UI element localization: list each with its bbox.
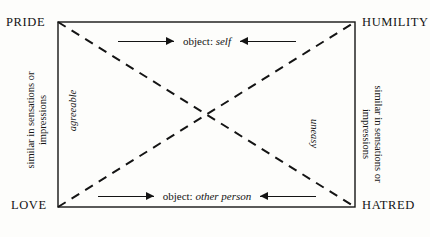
arrow-row-top: object: self	[76, 33, 338, 49]
side-label-left-line1: similar in sensations or	[25, 71, 36, 168]
edge-label-agreeable: agreeable	[67, 81, 78, 141]
object-value-bottom: other person	[195, 190, 251, 202]
object-label-bottom: object: other person	[163, 190, 252, 202]
side-label-right-line1: similar in sensations or	[373, 85, 384, 182]
edge-label-uneasy: uneasy	[309, 104, 320, 164]
corner-label-hatred: HATRED	[362, 199, 415, 212]
arrow-right-icon	[118, 37, 174, 46]
corner-label-love: LOVE	[11, 199, 47, 212]
object-label-top: object: self	[183, 35, 231, 47]
object-word-top: object:	[183, 35, 213, 47]
arrow-right-icon	[98, 192, 154, 201]
side-label-right-outer: similar in sensations or impressions	[360, 68, 384, 200]
side-label-right-line2: impressions	[360, 68, 372, 200]
side-label-left-line2: impressions	[37, 54, 49, 186]
object-word-bottom: object:	[163, 190, 193, 202]
side-label-left-outer: similar in sensations or impressions	[25, 54, 49, 186]
object-value-top: self	[216, 35, 231, 47]
corner-label-pride: PRIDE	[6, 16, 45, 29]
arrow-left-icon	[260, 192, 316, 201]
arrow-left-icon	[240, 37, 296, 46]
arrow-row-bottom: object: other person	[76, 188, 338, 204]
corner-label-humility: HUMILITY	[362, 16, 429, 29]
diagram-canvas: PRIDE HUMILITY LOVE HATRED similar in se…	[0, 0, 430, 237]
